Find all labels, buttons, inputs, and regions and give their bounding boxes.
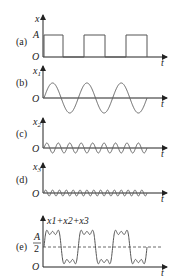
origin-label: O	[32, 261, 39, 272]
panel-c: (c) x2 O t	[16, 116, 167, 159]
origin-label: O	[32, 143, 39, 154]
panel-label: (b)	[16, 77, 28, 89]
panel-label: (e)	[16, 241, 27, 253]
panel-label: (a)	[16, 36, 27, 48]
y-axis-label: x2	[32, 116, 41, 129]
level-label: A	[32, 29, 40, 40]
origin-label: O	[32, 188, 39, 199]
panel-a: (a) x A O t	[16, 13, 167, 68]
x-axis-label: t	[161, 148, 164, 159]
origin-label: O	[32, 51, 39, 62]
panel-label: (c)	[16, 128, 27, 140]
square-wave	[44, 35, 147, 57]
origin-label: O	[32, 93, 39, 104]
y-axis-label: x3	[32, 161, 41, 174]
y-axis-label: x1+x2+x3	[46, 215, 89, 226]
x-axis-label: t	[161, 57, 164, 68]
x-axis-label: t	[161, 193, 164, 204]
level-denominator: 2	[34, 243, 39, 254]
x-axis-label: t	[161, 267, 164, 278]
panel-label: (d)	[16, 174, 28, 186]
panel-b: (b) x1 O t	[16, 65, 167, 113]
x-axis-label: t	[161, 98, 164, 109]
level-numerator: A	[33, 231, 41, 242]
fourier-figure: (a) x A O t (b) x1 O t (c) x2 O t (d) x3…	[0, 0, 181, 280]
y-axis-label: x1	[32, 65, 41, 78]
panel-e: (e) x1+x2+x3 A 2 O t	[16, 215, 167, 278]
panel-d: (d) x3 O t	[16, 161, 167, 204]
y-axis-label: x	[34, 13, 40, 24]
